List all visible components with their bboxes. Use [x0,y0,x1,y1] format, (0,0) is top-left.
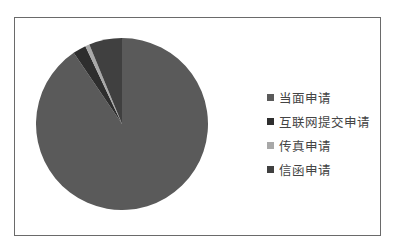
legend-item-internet: 互联网提交申请 [267,109,370,133]
legend-item-fax: 传真申请 [267,133,370,157]
pie-chart [36,38,208,210]
legend-swatch-icon [267,118,274,125]
legend-swatch-icon [267,142,274,149]
legend-swatch-icon [267,166,274,173]
legend-item-letter: 信函申请 [267,157,370,181]
legend: 当面申请 互联网提交申请 传真申请 信函申请 [267,85,370,181]
legend-swatch-icon [267,94,274,101]
legend-item-in-person: 当面申请 [267,85,370,109]
